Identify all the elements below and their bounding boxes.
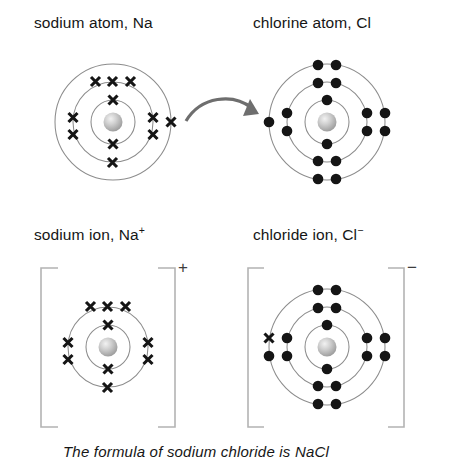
figure-caption: The formula of sodium chloride is NaCl	[63, 443, 329, 460]
nucleus	[104, 113, 123, 132]
nucleus	[99, 338, 118, 357]
chloride-ion-charge-sign: −	[407, 258, 417, 278]
sodium-ion-diagram	[0, 255, 220, 440]
chloride-ion-label: chloride ion, Cl−	[253, 226, 363, 244]
sodium-ion-label: sodium ion, Na+	[34, 226, 145, 244]
sodium-atom-label: sodium atom, Na	[34, 14, 153, 32]
chloride-ion-diagram	[232, 255, 452, 440]
nucleus	[318, 338, 337, 357]
sodium-ion-charge-sign: +	[178, 258, 188, 278]
chlorine-atom-diagram	[232, 43, 452, 203]
chlorine-atom-label: chlorine atom, Cl	[253, 14, 371, 32]
nucleus	[318, 113, 337, 132]
